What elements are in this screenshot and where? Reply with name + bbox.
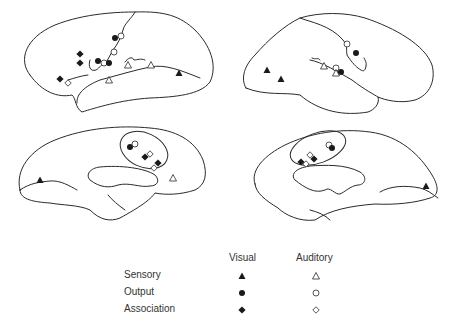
brain-outline	[19, 127, 205, 220]
calcarine-sulcus	[20, 181, 77, 190]
central-sulcus	[300, 18, 366, 71]
brain-outline	[24, 12, 213, 112]
panel-left-medial	[19, 124, 205, 220]
legend-auditory-association-icon	[313, 307, 319, 313]
legend-row-output: Output	[124, 286, 154, 297]
legend-col-visual: Visual	[229, 252, 256, 263]
legend-visual-output-icon	[239, 290, 245, 296]
legend-row-sensory: Sensory	[124, 269, 161, 280]
sulcus	[312, 58, 320, 60]
legend-visual-sensory-icon	[239, 273, 246, 280]
sulcus	[310, 210, 330, 220]
sulcus	[108, 195, 125, 210]
legend-markers	[238, 273, 319, 314]
legend-col-auditory: Auditory	[296, 252, 333, 263]
lateral-sulcus	[77, 66, 200, 103]
brain-figure	[0, 0, 453, 327]
callosal-sulcus	[88, 166, 158, 186]
panel-left-lateral	[24, 12, 213, 112]
panel-right-medial	[254, 124, 438, 220]
legend-row-association: Association	[124, 303, 175, 314]
sulcus	[68, 75, 88, 80]
callosal-sulcus	[293, 165, 365, 194]
brain-outline	[243, 14, 433, 114]
legend-auditory-sensory-icon	[313, 273, 320, 280]
legend-visual-association-icon	[238, 306, 245, 313]
lateral-sulcus	[310, 60, 378, 97]
calcarine-sulcus	[380, 186, 438, 198]
highlight-ellipse	[114, 124, 174, 176]
panel-right-lateral	[243, 14, 433, 114]
legend-auditory-output-icon	[313, 290, 319, 296]
